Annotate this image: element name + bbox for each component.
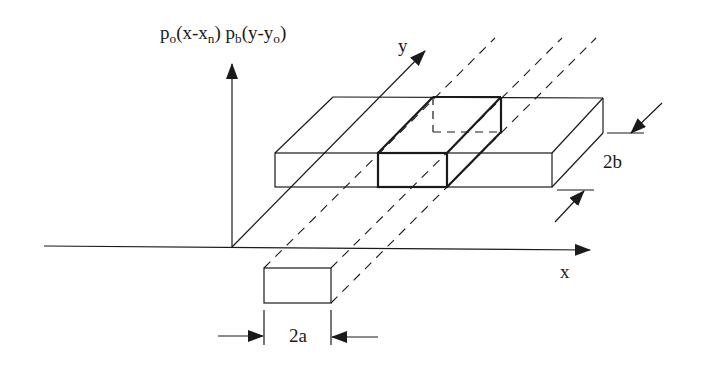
expr-p2: p bbox=[221, 22, 235, 43]
highlighted-cell bbox=[378, 97, 501, 187]
slab bbox=[275, 97, 603, 187]
x-axis bbox=[44, 246, 590, 250]
expr-p2-sub: b bbox=[235, 31, 242, 46]
diagram-canvas bbox=[0, 0, 704, 370]
expr-p1-arg: (x-x bbox=[176, 22, 208, 43]
y-axis-label: y bbox=[398, 36, 408, 55]
depth-dimension-label: 2b bbox=[603, 152, 622, 171]
x-axis-label: x bbox=[560, 262, 570, 281]
y-axis bbox=[232, 51, 425, 247]
cell-hidden-edges bbox=[433, 97, 501, 132]
projection-lines bbox=[264, 38, 596, 303]
width-dimension-label: 2a bbox=[289, 326, 307, 345]
expr-p2-close: ) bbox=[280, 22, 286, 43]
expr-p2-arg: (y-y bbox=[242, 22, 274, 43]
expr-p1: p bbox=[160, 22, 170, 43]
function-expression: po(x-xn) pb(y-yo) bbox=[160, 23, 286, 45]
source-box bbox=[264, 268, 331, 303]
